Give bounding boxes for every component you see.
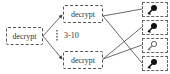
- decrypt-top-label: decrypt: [71, 10, 95, 19]
- edge-root-bottom: [43, 36, 62, 59]
- decrypt-root-label: decrypt: [13, 32, 37, 41]
- decrypt-bottom-node: decrypt: [63, 51, 103, 69]
- edge-top-key4: [103, 16, 142, 63]
- key-box-2: [142, 20, 168, 35]
- range-label: 3-10: [64, 31, 79, 40]
- key-outline-icon: [146, 40, 158, 52]
- key-box-1: [142, 2, 168, 17]
- edge-root-top: [43, 15, 62, 36]
- key-box-3: [142, 38, 168, 53]
- key-box-4: [142, 56, 168, 71]
- decrypt-root-node: decrypt: [6, 27, 43, 45]
- decrypt-bottom-label: decrypt: [71, 56, 95, 65]
- key-filled-icon: [146, 22, 158, 34]
- decrypt-top-node: decrypt: [63, 5, 103, 23]
- edge-top-key1: [103, 9, 142, 16]
- edge-bottom-key3: [103, 45, 142, 59]
- key-filled-icon: [146, 58, 158, 70]
- edge-bottom-key2: [103, 27, 142, 59]
- key-filled-icon: [146, 4, 158, 16]
